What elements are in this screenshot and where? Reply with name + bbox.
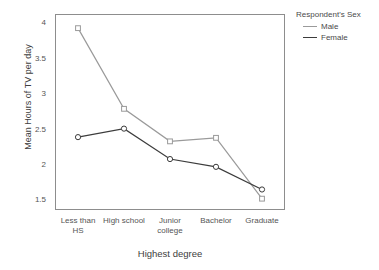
data-point-marker-female [121, 126, 126, 131]
legend-item-male[interactable]: Male [303, 22, 378, 31]
y-axis-tick-label: 3.5 [18, 53, 46, 62]
y-axis-tick-label: 3 [18, 89, 46, 98]
data-point-marker-female [75, 135, 80, 140]
series-line-male [78, 28, 262, 199]
data-point-marker-male [168, 139, 173, 144]
data-point-marker-female [167, 156, 172, 161]
y-axis-tick-label: 4 [18, 18, 46, 27]
data-point-marker-male [122, 106, 127, 111]
x-axis-tick-label: Graduate [234, 216, 290, 226]
x-axis-tick-label-line: college [142, 226, 198, 236]
y-axis-tick-label: 2 [18, 160, 46, 169]
data-point-marker-female [259, 187, 264, 192]
legend-line-swatch [303, 26, 317, 27]
x-axis-tick-label-line: HS [50, 226, 106, 236]
x-axis-tick-label-line: Graduate [234, 216, 290, 226]
legend-item-label: Male [321, 22, 338, 31]
y-axis-tick-labels: 1.522.533.54 [14, 0, 46, 270]
y-axis-tick-label: 1.5 [18, 195, 46, 204]
data-point-marker-male [260, 196, 265, 201]
legend: Respondent's Sex MaleFemale [296, 10, 378, 44]
chart-screenshot: Mean Hours of TV per day 1.522.533.54 Le… [0, 0, 379, 270]
legend-title: Respondent's Sex [296, 10, 378, 19]
legend-item-female[interactable]: Female [303, 33, 378, 42]
legend-line-swatch [303, 37, 317, 38]
data-point-marker-female [213, 164, 218, 169]
data-point-marker-male [214, 135, 219, 140]
y-axis-tick-label: 2.5 [18, 124, 46, 133]
data-point-marker-male [76, 26, 81, 31]
chart-plot-svg [55, 14, 285, 210]
legend-entries: MaleFemale [296, 22, 378, 42]
x-axis-title: Highest degree [55, 248, 285, 259]
legend-item-label: Female [321, 33, 348, 42]
